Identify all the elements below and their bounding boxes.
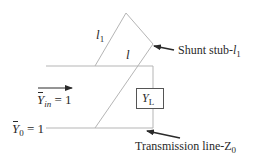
stub-length-label: l1 [96, 28, 104, 41]
load-label: YL [142, 92, 154, 104]
yin-label: Yin = 1 [37, 93, 72, 106]
distance-label: l [126, 48, 130, 61]
shunt-stub-label: Shunt stub-l1 [178, 44, 241, 56]
stub-diagonal [95, 44, 153, 128]
stub-right-edge [126, 13, 153, 44]
stub-matching-diagram: l1 l Shunt stub-l1 Yin = 1 Y0 = 1 YL Tra… [0, 0, 253, 159]
tline-pointer [147, 131, 180, 138]
transmission-line-label: Transmission line-Z0 [135, 140, 236, 152]
shunt-stub-pointer [154, 46, 174, 50]
y0-label: Y0 = 1 [12, 122, 44, 135]
